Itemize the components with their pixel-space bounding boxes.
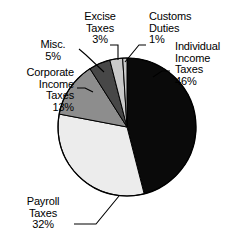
slice-value: 46% <box>175 76 220 88</box>
slice-value: 5% <box>30 51 76 63</box>
slice-label-excise-taxes: Excise Taxes 3% <box>74 11 126 46</box>
slice-label-misc: Misc. 5% <box>30 39 76 62</box>
slice-value: 1% <box>149 34 191 46</box>
leader-line-excise <box>110 45 118 60</box>
slice-label-corporate-income-taxes: Corporate Income Taxes 13% <box>8 67 74 113</box>
pie-chart-figure: Individual Income Taxes 46% Customs Duti… <box>0 0 245 243</box>
slice-label-customs-duties: Customs Duties 1% <box>149 11 191 46</box>
slice-label-individual-income-taxes: Individual Income Taxes 46% <box>175 41 220 87</box>
slice-label-line: Misc. <box>30 39 76 51</box>
slice-label-line: Customs <box>149 11 191 23</box>
slice-label-payroll-taxes: Payroll Taxes 32% <box>14 196 72 231</box>
slice-value: 32% <box>14 219 72 231</box>
slice-label-line: Payroll <box>14 196 72 208</box>
slice-label-line: Excise <box>74 11 126 23</box>
slice-value: 13% <box>8 102 74 114</box>
slice-value: 3% <box>74 34 126 46</box>
leader-line-payroll <box>74 196 119 224</box>
slice-label-line: Corporate <box>8 67 74 79</box>
